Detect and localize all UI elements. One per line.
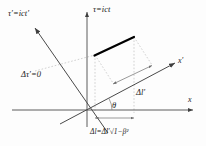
- rod-bold-segment: [95, 37, 135, 56]
- delta-l-prime-measure-arrow: [113, 66, 152, 85]
- x-prime-axis-line: [60, 63, 175, 124]
- guide-simultaneity: [35, 55, 95, 71]
- spacetime-diagram-figure: τ′=ict′ τ=ict x′ x Δτ′=0 Δl′ θ Δl=Δl′√1−…: [0, 0, 206, 146]
- delta-l-prime-label: Δl′: [136, 88, 145, 97]
- delta-tau-prime-zero-label: Δτ′=0: [21, 70, 41, 79]
- tau-prime-axis-label: τ′=ict′: [8, 9, 29, 18]
- dashed-guide-lines: [35, 37, 152, 113]
- guide-drop-left: [95, 55, 113, 83]
- tau-axis-label: τ=ict: [93, 5, 110, 14]
- guide-drop-right: [134, 37, 152, 65]
- x-axis-label: x: [188, 96, 192, 104]
- x-prime-axis-label: x′: [178, 57, 183, 65]
- tau-prime-axis-line: [35, 28, 108, 133]
- contraction-formula-label: Δl=Δl′√1−β²: [90, 128, 129, 136]
- theta-angle-label: θ: [112, 101, 116, 110]
